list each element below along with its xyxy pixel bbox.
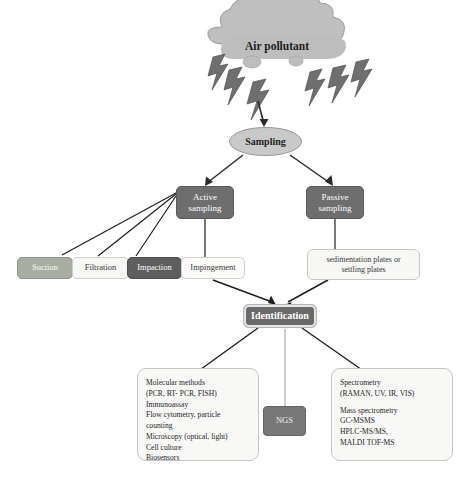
identification-node[interactable]: Identification [244,305,316,327]
sediment-line1: sedimentation plates or [326,255,400,264]
passive-sampling-line1: Passive [322,192,349,202]
molecular-line-6: Microscopy (optical, light) [146,432,250,443]
active-sampling-node[interactable]: Active sampling [176,186,234,219]
molecular-line-2: (PCR, RT- PCR, FISH) [146,389,250,400]
sampling-node[interactable]: Sampling [229,127,302,156]
method-suction[interactable]: Suction [17,257,73,279]
method-impingement[interactable]: Impingement [181,257,245,279]
spectro-line-3: Mass spectrometry [340,406,444,417]
method-impaction[interactable]: Impaction [127,257,182,279]
passive-sampling-line2: sampling [319,203,352,213]
cloud-icon [208,0,346,68]
spectro-line-5: HPLC-MS/MS, [340,427,444,438]
molecular-line-3: Immunoassay [146,400,250,411]
molecular-line-8: Biosensors [146,453,250,464]
active-sampling-line2: sampling [189,203,222,213]
sediment-line2: settling plates [341,265,385,274]
molecular-line-1: Molecular methods [146,378,250,389]
spectro-line-4: GC-MSMS [340,416,444,427]
method-filtration[interactable]: Filtration [72,257,129,279]
passive-sampling-node[interactable]: Passive sampling [306,186,364,219]
connector-sampling-branches [207,155,330,183]
molecular-line-5: counting [146,421,250,432]
ngs-node[interactable]: NGS [263,406,306,436]
method-sedimentation-plates[interactable]: sedimentation plates or settling plates [307,249,420,280]
cloud-label: Air pollutant [222,40,332,56]
spectro-line-2: (RAMAN, UV, IR, VIS) [340,389,444,400]
connector-identification-outputs [197,328,365,372]
molecular-line-7: Cell culture [146,443,250,454]
spectro-line-1: Spectrometry [340,378,444,389]
active-sampling-line1: Active [193,192,217,202]
molecular-line-4: Flow cytometry, particle [146,410,250,421]
molecular-methods-panel: Molecular methods (PCR, RT- PCR, FISH) I… [137,368,259,461]
spectrometry-panel: Spectrometry (RAMAN, UV, IR, VIS) Mass s… [331,368,453,461]
spectro-line-6: MALDI TOF-MS [340,438,444,449]
flowchart-diagram: Air pollutant Sampling Active sampling P… [0,0,473,492]
